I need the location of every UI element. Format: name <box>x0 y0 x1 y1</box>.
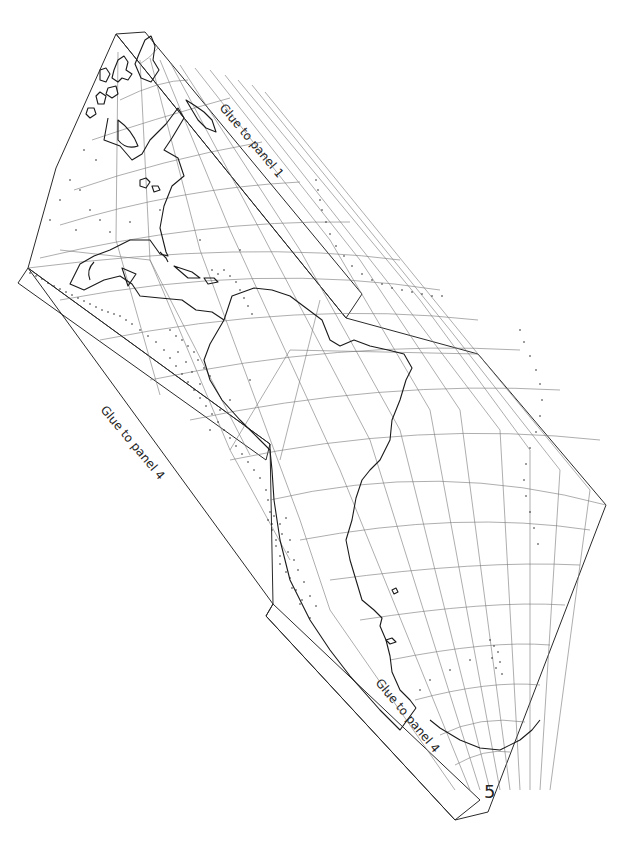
yucatan <box>122 268 136 286</box>
falklands <box>386 638 396 644</box>
gulf-coast <box>89 262 94 280</box>
glue-label-panel-4-left: Glue to panel 4 <box>98 403 168 483</box>
south-america-west <box>204 320 416 730</box>
antarctic-peninsula <box>430 720 540 750</box>
globe-panel-map: Glue to panel 1 Glue to panel 4 Glue to … <box>0 0 629 845</box>
arctic-archipelago <box>86 56 132 118</box>
glue-tab-panel-4-left: Glue to panel 4 <box>18 268 270 482</box>
glue-tab-panel-4-bottom: Glue to panel 4 <box>266 604 480 820</box>
south-america <box>224 288 416 708</box>
panel-number: 5 <box>484 781 495 802</box>
hudson-bay <box>118 120 138 147</box>
south-georgia <box>392 588 398 594</box>
cuba <box>174 266 200 278</box>
great-lakes <box>140 178 160 192</box>
